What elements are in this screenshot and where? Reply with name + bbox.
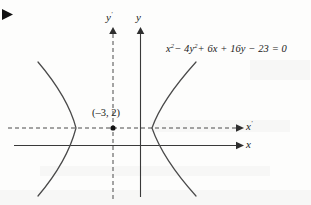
x-axis-label: x	[246, 139, 251, 150]
x-prime-axis-label: x′	[246, 121, 252, 132]
y-axis-label: y	[136, 12, 141, 23]
x-prime-mark: ′	[251, 119, 253, 126]
y-prime-mark: ′	[111, 10, 113, 17]
hyperbola-figure: x2− 4y2+ 6x + 16y − 23 = 0 (–3, 2) y′ y …	[0, 0, 311, 205]
figure-canvas	[0, 0, 311, 205]
center-point-dot	[110, 125, 115, 130]
equation-label: x2− 4y2+ 6x + 16y − 23 = 0	[166, 44, 287, 55]
equation-term2: − 4y	[174, 43, 194, 54]
center-coordinate-label: (–3, 2)	[92, 108, 120, 119]
equation-remainder: + 6x + 16y − 23 = 0	[198, 43, 287, 54]
y-prime-axis-label: y′	[106, 12, 112, 23]
